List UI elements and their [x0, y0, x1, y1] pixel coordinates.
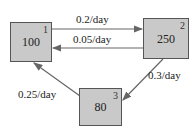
compartment-value: 80	[80, 100, 121, 115]
compartment-1: 1 100	[10, 22, 52, 62]
compartment-value: 250	[144, 32, 188, 47]
flow-label-2-to-3: 0.3/day	[148, 69, 181, 81]
compartment-value: 100	[11, 35, 51, 50]
compartment-id: 2	[180, 20, 185, 31]
flow-label-1-to-2: 0.2/day	[76, 13, 109, 25]
flow-label-2-to-1: 0.05/day	[73, 33, 111, 45]
compartment-2: 2 250	[143, 18, 189, 59]
compartment-id: 1	[43, 24, 48, 35]
flow-label-3-to-1: 0.25/day	[18, 88, 56, 100]
compartment-3: 3 80	[79, 88, 122, 126]
